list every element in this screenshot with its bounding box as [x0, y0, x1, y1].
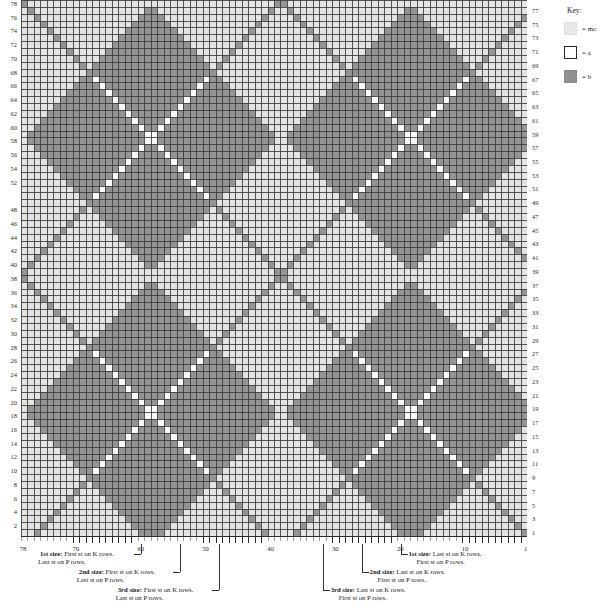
row-numbers-left: 7876747270686664626058565452484644424038…	[0, 0, 19, 536]
row-number-left: 36	[10, 289, 17, 296]
row-number-right: 5	[532, 502, 535, 509]
row-number-left: 10	[10, 467, 17, 474]
row-number-right: 19	[532, 405, 539, 412]
chart-grid-canvas	[21, 0, 527, 536]
key-label-a: = a	[582, 49, 591, 57]
row-number-left: 74	[10, 27, 17, 34]
size-note-leader-vertical	[219, 544, 220, 590]
size-note-left-3rd: 3rd size: First st on K rows.Last st on …	[118, 586, 194, 603]
row-number-left: 58	[10, 137, 17, 144]
row-number-right: 43	[532, 240, 539, 247]
row-number-left: 72	[10, 41, 17, 48]
row-number-right: 67	[532, 76, 539, 83]
size-note-line1: Last st on K rows.	[431, 550, 482, 557]
row-number-left: 46	[10, 220, 17, 227]
row-number-left: 4	[14, 508, 17, 515]
size-note-line1: First st on K rows.	[142, 586, 193, 593]
size-note-line2: First st on P rows.	[339, 594, 406, 602]
row-number-right: 21	[532, 392, 539, 399]
size-note-label: 3rd size:	[331, 586, 355, 593]
row-number-left: 32	[10, 316, 17, 323]
row-number-right: 65	[532, 89, 539, 96]
row-number-left: 2	[14, 522, 17, 529]
row-number-right: 23	[532, 378, 539, 385]
size-note-leader-horizontal	[212, 590, 219, 591]
size-note-leader-horizontal	[362, 572, 369, 573]
row-number-left: 60	[10, 124, 17, 131]
size-note-line1: First st on K rows.	[62, 550, 113, 557]
row-number-left: 12	[10, 453, 17, 460]
row-number-right: 63	[532, 103, 539, 110]
row-number-right: 47	[532, 213, 539, 220]
row-number-left: 70	[10, 55, 17, 62]
row-number-left: 48	[10, 206, 17, 213]
row-number-right: 39	[532, 268, 539, 275]
size-note-label: 2nd size:	[370, 568, 395, 575]
row-number-right: 11	[532, 460, 538, 467]
size-note-leader-vertical	[180, 544, 181, 572]
size-note-leader-horizontal	[134, 554, 141, 555]
key-swatch-a	[564, 46, 577, 59]
argyle-chart	[21, 0, 527, 536]
row-number-left: 64	[10, 96, 17, 103]
row-number-right: 27	[532, 350, 539, 357]
size-note-label: 3rd size:	[118, 586, 142, 593]
size-note-label: 1st size:	[40, 550, 62, 557]
row-number-right: 45	[532, 227, 539, 234]
row-number-left: 22	[10, 385, 17, 392]
column-number: 30	[332, 544, 339, 553]
size-note-line2: Last st on P rows.	[38, 558, 114, 566]
row-number-right: 55	[532, 158, 539, 165]
key-panel: Key: = mc= a= b	[562, 6, 608, 106]
row-number-left: 26	[10, 357, 17, 364]
column-number: 40	[267, 544, 274, 553]
size-note-left-2nd: 2nd size: First st on K rows.Last st on …	[79, 568, 155, 585]
row-number-right: 7	[532, 488, 535, 495]
size-note-line1: First st on K rows.	[104, 568, 155, 575]
size-note-line2: Last st on P rows.	[77, 576, 155, 584]
size-note-leader-horizontal	[173, 572, 180, 573]
row-number-left: 18	[10, 412, 17, 419]
row-number-left: 54	[10, 165, 17, 172]
row-number-left: 66	[10, 82, 17, 89]
row-number-left: 34	[10, 302, 17, 309]
column-ruler	[21, 536, 527, 544]
row-numbers-right: 7775737169676563615957555351494745434139…	[529, 0, 553, 536]
size-note-right-3rd: 3rd size: Last st on K rows.First st on …	[331, 586, 406, 603]
row-number-right: 15	[532, 433, 539, 440]
key-title: Key:	[567, 6, 582, 15]
row-number-left: 42	[10, 247, 17, 254]
key-swatch-mc	[564, 22, 577, 35]
row-number-right: 53	[532, 172, 539, 179]
row-number-right: 31	[532, 323, 539, 330]
row-number-left: 24	[10, 371, 17, 378]
column-number: 78	[20, 544, 27, 553]
row-number-left: 68	[10, 69, 17, 76]
row-number-left: 78	[10, 0, 17, 7]
row-number-left: 16	[10, 426, 17, 433]
row-number-right: 25	[532, 364, 539, 371]
key-label-mc: = mc	[582, 25, 596, 33]
row-number-left: 8	[14, 481, 17, 488]
size-note-label: 2nd size:	[79, 568, 104, 575]
size-note-line2: First st on P rows.	[417, 558, 482, 566]
key-label-b: = b	[582, 73, 591, 81]
row-number-left: 20	[10, 399, 17, 406]
size-note-leader-vertical	[141, 544, 142, 554]
size-note-leader-vertical	[401, 544, 402, 554]
row-number-right: 3	[532, 515, 535, 522]
key-entry-b: = b	[564, 70, 608, 84]
size-note-leader-horizontal	[401, 554, 408, 555]
row-number-left: 56	[10, 151, 17, 158]
column-ruler-canvas	[21, 536, 527, 544]
row-number-right: 9	[532, 474, 535, 481]
row-number-right: 1	[532, 529, 535, 536]
row-number-left: 38	[10, 275, 17, 282]
row-number-left: 30	[10, 330, 17, 337]
size-note-line2: First st on P rows.	[378, 576, 446, 584]
row-number-right: 51	[532, 185, 539, 192]
row-number-right: 61	[532, 117, 539, 124]
row-number-right: 13	[532, 447, 539, 454]
row-number-right: 71	[532, 48, 539, 55]
size-note-leader-vertical	[323, 544, 324, 590]
